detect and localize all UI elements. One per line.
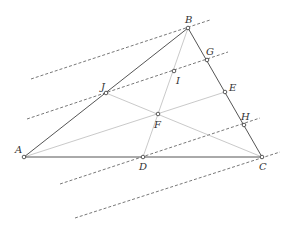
median-AE	[24, 92, 225, 157]
label-B: B	[184, 14, 192, 25]
point-A	[22, 155, 26, 159]
geometry-diagram: ABCDEFGHIJ	[0, 0, 294, 229]
dashed-line-through-C	[75, 152, 280, 218]
label-I: I	[175, 75, 181, 86]
label-J: J	[99, 81, 106, 92]
median-BD	[143, 28, 188, 157]
point-E	[223, 90, 227, 94]
label-G: G	[206, 46, 214, 57]
label-F: F	[153, 119, 162, 130]
dashed-line-through-B	[31, 20, 210, 79]
point-F	[156, 112, 160, 116]
diagram-svg: ABCDEFGHIJ	[0, 0, 294, 229]
points	[22, 26, 264, 159]
label-D: D	[138, 161, 147, 172]
label-E: E	[228, 82, 237, 93]
label-A: A	[14, 144, 22, 155]
label-C: C	[259, 161, 267, 172]
label-H: H	[240, 111, 250, 122]
point-C	[260, 155, 264, 159]
dashed-line-through-J-I-G	[27, 52, 228, 119]
point-H	[242, 123, 246, 127]
point-I	[172, 69, 176, 73]
point-B	[186, 26, 190, 30]
point-D	[141, 155, 145, 159]
point-G	[205, 58, 209, 62]
median-CJ	[106, 93, 262, 157]
